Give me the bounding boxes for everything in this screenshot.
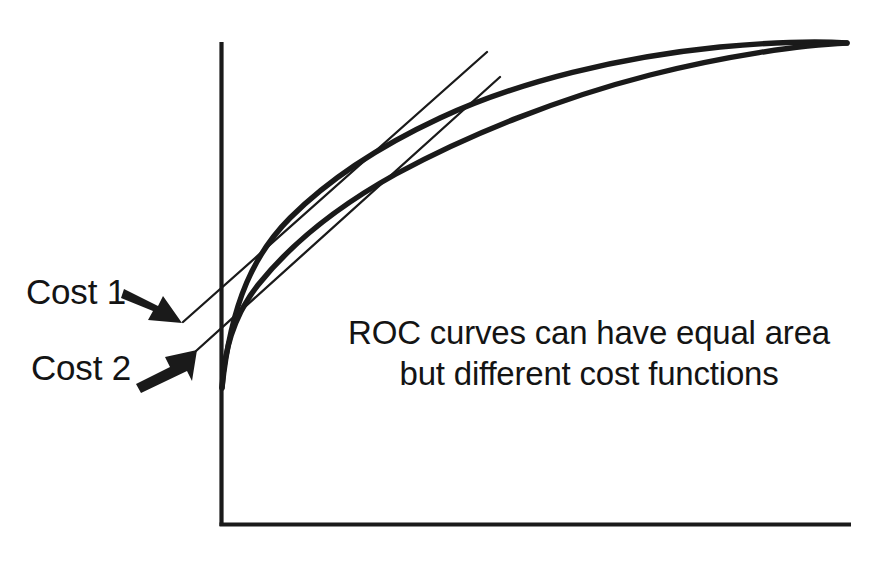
- roc-figure: Cost 1 Cost 2 ROC curves can have equal …: [0, 0, 883, 563]
- cost2-arrow-shape: [136, 350, 197, 393]
- cost2-annotation-label: Cost 2: [31, 348, 131, 388]
- cost1-tangent-line: [183, 52, 487, 322]
- cost1-arrow-shape: [121, 289, 182, 323]
- plot-axes: [220, 42, 852, 526]
- figure-caption: ROC curves can have equal area but diffe…: [306, 312, 872, 394]
- caption-line-2: but different cost functions: [306, 353, 872, 394]
- cost2-tangent-line: [196, 77, 500, 351]
- roc-plot-canvas: [0, 0, 883, 563]
- caption-line-1: ROC curves can have equal area: [306, 312, 872, 353]
- cost1-annotation-label: Cost 1: [26, 272, 126, 312]
- cost1-arrow: [121, 289, 182, 323]
- tangent-lines-group: [183, 52, 500, 351]
- cost2-arrow: [136, 350, 197, 393]
